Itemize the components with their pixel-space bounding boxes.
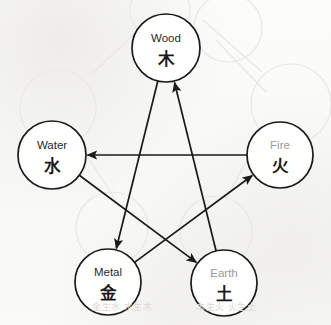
bleed-text: 金生水 水生木: [92, 301, 152, 312]
node-circle-water: [18, 121, 86, 189]
edge-wood-metal: [116, 81, 158, 249]
edge-layer: [79, 81, 252, 262]
node-wood: Wood木: [132, 14, 200, 82]
node-label-en-fire: Fire: [270, 139, 290, 151]
node-label-cn-fire: 火: [272, 157, 289, 176]
node-water: Water水: [18, 121, 86, 189]
edge-metal-fire: [135, 175, 253, 262]
node-label-cn-earth: 土: [216, 284, 233, 304]
node-label-en-earth: Earth: [210, 267, 238, 279]
node-label-en-wood: Wood: [151, 32, 181, 44]
node-circle-fire: [247, 122, 313, 188]
ghost-line: [203, 20, 262, 72]
node-label-en-metal: Metal: [94, 266, 122, 278]
node-circle-wood: [132, 14, 200, 82]
node-label-en-water: Water: [37, 139, 67, 151]
node-label-cn-water: 水: [44, 156, 61, 176]
ghost-line: [216, 40, 266, 92]
node-label-cn-metal: 金: [99, 283, 117, 303]
node-fire: Fire火: [247, 122, 313, 188]
bleed-text-layer: 金生水 水生木木生火 火生土: [92, 301, 256, 312]
edge-water-earth: [79, 175, 196, 262]
five-elements-diagram: Wood木Water水Fire火Metal金Earth土 金生水 水生木木生火 …: [0, 0, 331, 325]
node-layer: Wood木Water水Fire火Metal金Earth土: [18, 14, 313, 316]
bleed-text: 木生火 火生土: [196, 301, 256, 312]
node-label-cn-wood: 木: [157, 49, 175, 69]
diagram-canvas: Wood木Water水Fire火Metal金Earth土 金生水 水生木木生火 …: [0, 0, 331, 325]
